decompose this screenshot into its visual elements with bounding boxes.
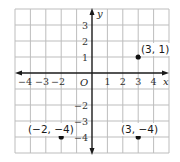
y-tick-label: 2 <box>82 36 88 47</box>
x-tick-label: −3 <box>35 76 49 87</box>
y-tick-label: −4 <box>74 132 88 143</box>
x-tick-label: −4 <box>18 76 32 87</box>
x-tick-label: 1 <box>104 76 110 87</box>
coordinate-plane: y x O −4 −3 −2 1 2 3 4 3 2 1 −2 −3 −4 (3… <box>0 0 180 162</box>
x-axis-left-arrow-icon <box>15 71 22 76</box>
y-tick-label: 1 <box>82 52 88 63</box>
y-axis-label: y <box>96 8 103 19</box>
x-tick-label: −2 <box>51 76 65 87</box>
point-label: (3, −4) <box>121 123 158 135</box>
point-label: (3, 1) <box>141 43 169 55</box>
x-axis-label: x <box>163 76 169 87</box>
x-axis-right-arrow-icon <box>162 71 169 76</box>
y-tick-label: −2 <box>74 100 88 111</box>
x-tick-label: 4 <box>151 76 157 87</box>
y-tick-label: −3 <box>74 116 88 127</box>
origin-label: O <box>80 77 88 88</box>
x-tick-label: 2 <box>120 76 126 87</box>
y-tick-label: 3 <box>82 20 88 31</box>
y-axis-down-arrow-icon <box>90 148 95 155</box>
point-label: (−2, −4) <box>28 123 74 135</box>
x-tick-label: 3 <box>135 76 141 87</box>
